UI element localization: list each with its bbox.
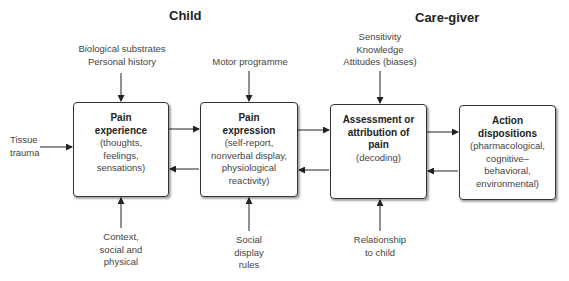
box-action-dispositions: Action dispositions (pharmacological, co… (459, 105, 556, 200)
input-relationship-to-child: Relationshipto child (345, 234, 415, 259)
box-pain-expression: Pain expression (self-report, nonverbal … (200, 102, 298, 197)
input-tissue-trauma: Tissuetrauma (10, 134, 40, 159)
input-social-display-rules: Socialdisplayrules (219, 234, 279, 272)
input-context: Context,social andphysical (86, 231, 156, 269)
input-caregiver-attributes: SensitivityKnowledgeAttitudes (biases) (335, 31, 425, 69)
input-biological-substrates: Biological substratesPersonal history (74, 43, 170, 68)
input-motor-programme: Motor programme (205, 56, 295, 69)
box-assessment-attribution: Assessment or attribution of pain (decod… (330, 104, 427, 199)
box-pain-experience: Pain experience (thoughts, feelings, sen… (73, 102, 169, 197)
